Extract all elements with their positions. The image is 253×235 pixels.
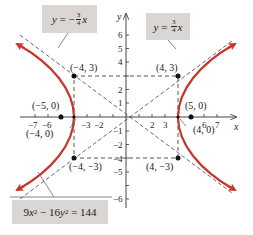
equation-label: 9x2 − 16y2 = 144 xyxy=(12,200,108,224)
point-label-4-neg3: (4, −3) xyxy=(146,161,173,173)
x-tick-label: 3 xyxy=(163,120,168,130)
point-label-4-0: (4, 0) xyxy=(193,124,215,136)
y-tick-label: 4 xyxy=(118,57,123,67)
point-label-5-0: (5, 0) xyxy=(185,100,207,112)
y-tick-label: −1 xyxy=(113,126,123,136)
y-tick-label: 1 xyxy=(118,98,123,108)
y-tick-label: 6 xyxy=(118,30,123,40)
y-tick-label: −4 xyxy=(113,154,123,164)
point-label-neg5-0: (−5, 0) xyxy=(32,100,59,112)
x-tick-label: −2 xyxy=(94,120,104,130)
hyperbola-diagram: x y −7 −6 −3 −2 2 3 6 7 6 5 4 2 1 −1 −2 … xyxy=(0,0,253,235)
point-label-neg4-neg3: (−4, −3) xyxy=(69,161,102,173)
y-axis-label: y xyxy=(116,11,122,22)
fraction: 3 4 xyxy=(76,12,82,27)
point-label-4-3: (4, 3) xyxy=(156,62,178,74)
x-tick-label: 2 xyxy=(150,120,155,130)
x-tick-label: 7 xyxy=(215,120,220,130)
y-tick-label: 5 xyxy=(118,44,123,54)
y-tick-label: 2 xyxy=(118,85,123,95)
x-tick-label: −3 xyxy=(81,120,91,130)
y-tick-label: −6 xyxy=(113,194,123,204)
y-tick-label: −2 xyxy=(113,140,123,150)
x-axis-label: x xyxy=(233,121,239,132)
asymptote-negative-label: y = − 3 4 x xyxy=(42,5,97,33)
point-label-neg4-0: (−4, 0) xyxy=(26,128,53,140)
asymptote-positive-label: y = 3 4 x xyxy=(146,13,190,40)
point-label-neg4-3: (−4, 3) xyxy=(70,62,97,74)
y-tick-label: −5 xyxy=(113,167,123,177)
fraction: 3 4 xyxy=(171,19,177,34)
